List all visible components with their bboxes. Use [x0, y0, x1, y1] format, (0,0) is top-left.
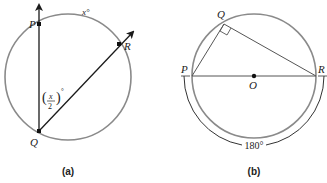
caption-a: (a): [62, 166, 74, 177]
label-p-a: P: [28, 18, 36, 30]
label-r-b: R: [317, 63, 325, 75]
point-o: [252, 74, 256, 78]
svg-text:°: °: [61, 87, 64, 95]
ray-qr: [39, 32, 133, 131]
point-q-a: [37, 129, 41, 133]
label-r-a: R: [123, 40, 131, 52]
label-q-a: Q: [30, 136, 38, 148]
figure-a: P Q R x° ( x 2 ) ° (a): [5, 5, 133, 177]
arc-label-x: x°: [81, 7, 90, 17]
svg-text:x: x: [48, 92, 53, 101]
chord-qr: [224, 24, 316, 76]
label-q-b: Q: [217, 8, 225, 20]
svg-text:(: (: [42, 90, 47, 106]
caption-b: (b): [248, 166, 261, 177]
circle-a: [5, 14, 131, 140]
chord-pq: [192, 24, 224, 76]
diagram-canvas: P Q R x° ( x 2 ) ° (a) 180° P Q R O (b): [0, 0, 327, 183]
right-angle-mark: [220, 24, 231, 35]
figure-b: 180° P Q R O (b): [180, 8, 327, 177]
point-p-a: [37, 22, 41, 26]
point-r-a: [117, 42, 121, 46]
svg-text:2: 2: [48, 102, 52, 111]
arc-label-180: 180°: [245, 140, 264, 151]
label-o: O: [249, 79, 257, 91]
label-p-b: P: [180, 63, 188, 75]
